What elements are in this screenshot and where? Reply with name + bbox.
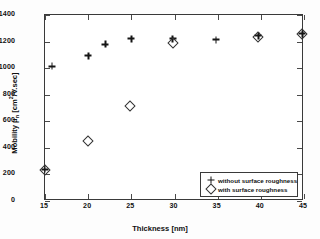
x-axis-tick-label: 30	[161, 202, 187, 210]
legend-label: without surface roughness	[218, 177, 297, 184]
data-point-diamond-icon	[297, 29, 308, 40]
x-axis-tick	[45, 194, 46, 199]
data-point-diamond-icon	[82, 136, 93, 147]
y-axis-tick-label: 800	[0, 90, 15, 98]
y-axis-tick-label: 1400	[0, 10, 15, 18]
x-axis-tick-label: 25	[117, 202, 143, 210]
x-axis-tick	[88, 15, 89, 20]
x-axis-tick	[218, 15, 219, 20]
x-axis-tick	[131, 194, 132, 199]
x-axis-tick	[88, 194, 89, 199]
y-axis-tick-label: 0	[0, 196, 15, 204]
x-axis-tick	[304, 194, 305, 199]
x-axis-tick-label: 15	[31, 202, 57, 210]
x-axis-tick	[175, 194, 176, 199]
y-axis-tick	[297, 95, 302, 96]
data-point-diamond-icon	[167, 37, 178, 48]
data-point-plus-icon	[212, 36, 219, 43]
y-axis-tick-label: 200	[0, 169, 15, 177]
y-axis-tick	[45, 148, 50, 149]
data-point-diamond-icon	[253, 31, 264, 42]
x-axis-tick	[175, 15, 176, 20]
x-axis-tick-label: 40	[247, 202, 273, 210]
y-axis-title-unit-a: [cm	[10, 99, 19, 115]
y-axis-tick-label: 600	[0, 116, 15, 124]
x-axis-title: Thickness [nm]	[0, 224, 320, 233]
y-axis-tick	[297, 148, 302, 149]
y-axis-tick	[297, 121, 302, 122]
y-axis-tick	[297, 42, 302, 43]
data-point-plus-icon	[42, 166, 49, 173]
y-axis-tick	[45, 68, 50, 69]
legend-marker-plus-icon	[204, 176, 218, 185]
data-point-plus-icon	[169, 35, 176, 42]
data-point-plus-icon	[299, 30, 306, 37]
x-axis-tick	[45, 15, 46, 20]
legend-entry-without-surface-roughness: without surface roughness	[204, 176, 294, 185]
data-point-plus-icon	[255, 32, 262, 39]
legend: without surface roughness with surface r…	[200, 172, 298, 197]
x-axis-tick-label: 20	[74, 202, 100, 210]
x-axis-tick-label: 35	[204, 202, 230, 210]
x-axis-tick	[131, 15, 132, 20]
y-axis-tick	[45, 174, 50, 175]
y-axis-tick	[45, 121, 50, 122]
y-axis-title: Mobility μn [cm2/V.sec]	[8, 38, 20, 188]
data-point-plus-icon	[102, 41, 109, 48]
legend-marker-diamond-icon	[204, 185, 218, 194]
x-axis-tick	[304, 15, 305, 20]
y-axis-tick	[297, 68, 302, 69]
y-axis-tick	[297, 15, 302, 16]
y-axis-tick	[45, 42, 50, 43]
figure-scatter-mobility-vs-thickness: Mobility μn [cm2/V.sec] Thickness [nm] w…	[0, 0, 320, 239]
x-axis-tick	[261, 15, 262, 20]
legend-label: with surface roughness	[218, 186, 287, 193]
y-axis-tick-label: 1200	[0, 37, 15, 45]
data-point-plus-icon	[128, 35, 135, 42]
y-axis-tick-label: 1000	[0, 63, 15, 71]
data-point-plus-icon	[85, 52, 92, 59]
y-axis-tick	[45, 95, 50, 96]
legend-entry-with-surface-roughness: with surface roughness	[204, 185, 294, 194]
data-point-diamond-icon	[124, 100, 135, 111]
y-axis-tick-label: 400	[0, 143, 15, 151]
x-axis-tick-label: 45	[290, 202, 316, 210]
